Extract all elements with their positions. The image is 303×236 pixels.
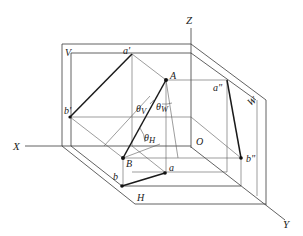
label-b-front: b' [64, 105, 72, 116]
label-theta-w: θW [156, 101, 169, 114]
point-A [164, 78, 168, 82]
point-B [121, 156, 125, 160]
label-B: B [126, 158, 132, 169]
label-A: A [169, 70, 177, 81]
z-axis-label: Z [186, 14, 193, 26]
segment-ab-front [70, 54, 132, 117]
point-a-top [163, 171, 167, 175]
points [68, 78, 242, 188]
point-b-top [120, 184, 124, 188]
label-theta-h: θH [144, 132, 156, 145]
label-a-side: a" [213, 82, 223, 93]
w-plane [191, 44, 266, 205]
label-b-side: b" [246, 153, 256, 164]
v-plane-label: V [65, 47, 73, 58]
h-plane-label: H [136, 192, 145, 203]
h-plane [62, 146, 266, 204]
y-axis-label: Y [283, 218, 291, 230]
point-b-side [239, 156, 243, 160]
segment-ab-top [122, 173, 165, 186]
label-a-front: a' [123, 45, 131, 56]
origin-label: O [196, 136, 203, 147]
w-plane-label: W [245, 93, 260, 108]
label-a-top: a [169, 162, 174, 173]
label-b-top: b [113, 171, 118, 182]
projection-diagram: Z X Y O V H W A B a' b' a" b" a b θV θW … [0, 0, 303, 236]
segment-ab-side [227, 80, 241, 158]
x-axis-label: X [12, 140, 21, 152]
